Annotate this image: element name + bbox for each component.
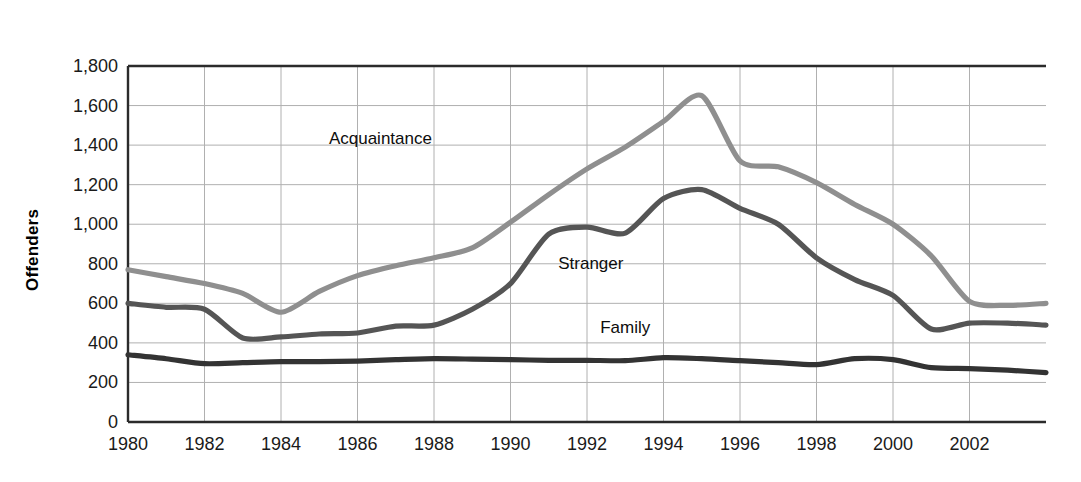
chart-figure: Offenders 1,8001,6001,4001,2001,00080060…	[0, 0, 1081, 482]
y-tick-label: 200	[46, 372, 118, 393]
y-tick-label: 1,600	[46, 95, 118, 116]
x-tick-label: 1992	[567, 434, 607, 455]
gridlines	[128, 66, 1046, 422]
y-tick-label: 400	[46, 332, 118, 353]
y-tick-label: 800	[46, 253, 118, 274]
x-tick-label: 2000	[873, 434, 913, 455]
x-tick-label: 1988	[414, 434, 454, 455]
y-axis-title-text: Offenders	[23, 209, 43, 291]
x-tick-label: 1986	[337, 434, 377, 455]
y-axis-title: Offenders	[18, 140, 48, 360]
x-tick-label: 1990	[490, 434, 530, 455]
series-label-acquaintance: Acquaintance	[329, 129, 432, 149]
x-tick-label: 1982	[184, 434, 224, 455]
y-tick-label: 1,400	[46, 135, 118, 156]
y-tick-label: 0	[46, 412, 118, 433]
x-tick-label: 1996	[720, 434, 760, 455]
y-tick-label: 1,200	[46, 174, 118, 195]
y-tick-label: 1,800	[46, 56, 118, 77]
series-label-family: Family	[600, 318, 650, 338]
series-label-stranger: Stranger	[558, 254, 623, 274]
x-tick-label: 1980	[108, 434, 148, 455]
x-tick-label: 1984	[261, 434, 301, 455]
x-tick-label: 2002	[949, 434, 989, 455]
x-tick-label: 1994	[643, 434, 683, 455]
y-tick-label: 600	[46, 293, 118, 314]
y-tick-label: 1,000	[46, 214, 118, 235]
line-chart-canvas	[0, 0, 1081, 482]
x-tick-label: 1998	[796, 434, 836, 455]
